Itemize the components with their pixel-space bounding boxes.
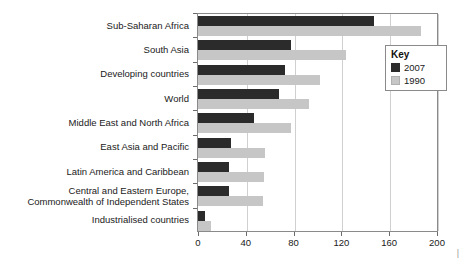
legend-label: 1990 [404,75,425,86]
bar-2007 [198,89,279,99]
category-tick [193,110,197,111]
bar-2007 [198,211,205,221]
category-label: Sub-Saharan Africa [0,20,189,31]
bar-2007 [198,138,231,148]
chart-page: Sub-Saharan AfricaSouth AsiaDeveloping c… [0,0,461,271]
category-label: Central and Eastern Europe, Commonwealth… [0,185,189,207]
legend-swatch-icon [391,76,400,85]
bar-1990 [198,172,264,182]
category-tick [193,208,197,209]
legend-entry: 1990 [391,75,441,86]
legend-title: Key [391,49,441,60]
bar-group [198,209,437,233]
category-label: Developing countries [0,68,189,79]
axis-tick [294,232,295,236]
value-axis: 04080120160200 [197,232,438,256]
edge-artifact: | [457,248,459,258]
axis-tick [389,232,390,236]
category-tick [193,37,197,38]
bar-group [198,160,437,184]
axis-tick-label: 120 [333,237,349,248]
category-tick [193,62,197,63]
bar-1990 [198,26,421,36]
bar-1990 [198,221,211,231]
bar-group [198,111,437,135]
legend-label: 2007 [404,62,425,73]
bar-1990 [198,50,346,60]
bar-group [198,14,437,38]
category-tick [193,183,197,184]
bar-1990 [198,123,291,133]
bar-2007 [198,113,254,123]
category-label: World [0,93,189,104]
bar-1990 [198,196,263,206]
axis-tick-label: 160 [381,237,397,248]
legend-swatch-icon [391,63,400,72]
legend-entries: 20071990 [391,62,441,86]
chart-legend: Key 20071990 [385,45,447,91]
bar-2007 [198,186,229,196]
axis-tick-label: 0 [195,237,200,248]
category-label: East Asia and Pacific [0,141,189,152]
bar-2007 [198,65,285,75]
category-label: Latin America and Caribbean [0,166,189,177]
bar-2007 [198,16,374,26]
bar-1990 [198,99,309,109]
bar-2007 [198,162,229,172]
axis-tick [437,232,438,236]
bar-2007 [198,40,291,50]
legend-entry: 2007 [391,62,441,73]
category-label: Middle East and North Africa [0,117,189,128]
axis-tick-label: 200 [429,237,445,248]
axis-tick [341,232,342,236]
bar-1990 [198,75,320,85]
category-tick [193,135,197,136]
category-tick [193,159,197,160]
bar-group [198,136,437,160]
bar-1990 [198,148,265,158]
category-label: Industrialised countries [0,214,189,225]
axis-tick [198,232,199,236]
category-tick [193,86,197,87]
axis-tick-label: 40 [241,237,252,248]
category-tick [193,13,197,14]
axis-tick [246,232,247,236]
category-axis-labels: Sub-Saharan AfricaSouth AsiaDeveloping c… [0,13,193,232]
bar-group [198,184,437,208]
category-label: South Asia [0,44,189,55]
axis-tick-label: 80 [288,237,299,248]
